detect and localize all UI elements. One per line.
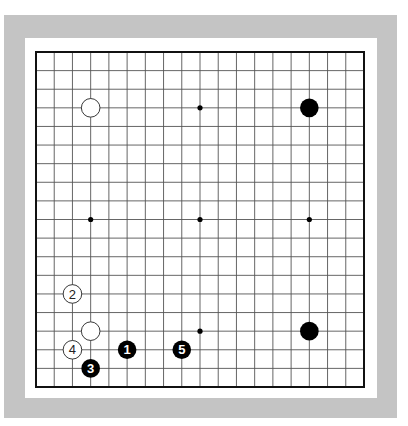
white-stone[interactable] — [81, 322, 100, 341]
stone-circle — [81, 99, 100, 118]
black-stone[interactable]: 1 — [118, 340, 137, 359]
stone-circle — [81, 322, 100, 341]
star-point — [197, 329, 202, 334]
move-number-label: 2 — [69, 287, 76, 302]
move-number-label: 1 — [123, 342, 130, 357]
move-number-label: 5 — [178, 342, 185, 357]
black-stone[interactable] — [300, 99, 319, 118]
go-board[interactable]: 12345 — [0, 0, 408, 426]
black-stone[interactable]: 3 — [81, 359, 100, 378]
black-stone[interactable]: 5 — [172, 340, 191, 359]
star-point — [197, 217, 202, 222]
white-stone[interactable]: 2 — [63, 285, 82, 304]
move-number-label: 4 — [69, 342, 76, 357]
stone-circle — [300, 322, 319, 341]
move-number-label: 3 — [87, 361, 94, 376]
white-stone[interactable] — [81, 99, 100, 118]
star-point — [197, 105, 202, 110]
white-stone[interactable]: 4 — [63, 340, 82, 359]
star-point — [307, 217, 312, 222]
stone-circle — [300, 99, 319, 118]
star-point — [88, 217, 93, 222]
black-stone[interactable] — [300, 322, 319, 341]
